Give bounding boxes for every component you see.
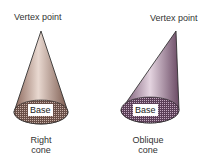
right-caption-line2: cone: [27, 145, 55, 155]
oblique-base-label: Base: [133, 104, 158, 116]
oblique-vertex-label: Vertex point: [150, 13, 198, 23]
right-caption-line1: Right: [27, 135, 55, 145]
right-vertex-label: Vertex point: [14, 12, 62, 22]
right-base-label: Base: [28, 104, 53, 116]
oblique-cone-caption: Oblique cone: [126, 135, 170, 155]
oblique-caption-line2: cone: [126, 145, 170, 155]
right-cone-caption: Right cone: [27, 135, 55, 155]
oblique-caption-line1: Oblique: [126, 135, 170, 145]
